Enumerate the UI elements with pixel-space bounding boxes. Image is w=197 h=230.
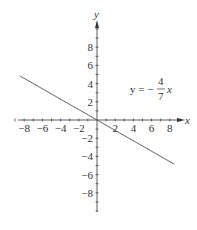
x-axis-arrow-icon — [177, 118, 185, 122]
x-tick-label: −4 — [55, 122, 67, 134]
y-tick-label: −4 — [81, 150, 93, 162]
x-tick-label: 4 — [131, 122, 137, 134]
equation-numerator: 4 — [158, 75, 164, 87]
y-tick-label: −8 — [81, 187, 93, 199]
equation-lhs: y = − — [130, 83, 153, 95]
x-tick-label: 2 — [112, 122, 118, 134]
y-tick-label: 4 — [88, 78, 94, 90]
x-tick-label: 6 — [149, 122, 155, 134]
chart: −8−6−4−22468 8642−2−4−6−8 x y y = − 4 7 … — [0, 0, 197, 230]
x-tick-label: −8 — [18, 122, 30, 134]
y-tick-label: 8 — [88, 41, 94, 53]
x-tick-label: 8 — [167, 122, 173, 134]
x-axis-label: x — [184, 114, 190, 126]
y-tick-label: 6 — [88, 59, 94, 71]
y-tick-label: 2 — [88, 96, 94, 108]
x-tick-labels: −8−6−4−22468 — [18, 122, 173, 134]
equation-variable: x — [166, 83, 172, 95]
y-tick-label: −6 — [81, 169, 93, 181]
y-axis-label: y — [93, 8, 99, 20]
axes — [18, 24, 181, 212]
y-tick-label: −2 — [81, 132, 93, 144]
equation-denominator: 7 — [158, 90, 164, 102]
x-tick-label: −6 — [37, 122, 49, 134]
equation-annotation: y = − 4 7 x — [130, 75, 172, 102]
y-axis-arrow-icon — [95, 20, 99, 28]
